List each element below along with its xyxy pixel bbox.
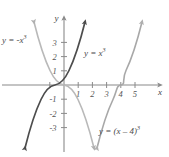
x-tick-labels: 1 2 3 4 5 [76,89,137,99]
curve-label-x-minus-4-cubed: y = (x – 4)3 [99,125,140,136]
curve-label-neg-x-cubed: y = -x3 [2,34,27,45]
curve-label-x-cubed-text: y = x [84,48,103,58]
y-tick-label-neg3: -3 [50,123,57,133]
curve-label-x-cubed: y = x3 [84,47,106,58]
y-tick-label-neg2: -2 [50,109,58,119]
x-tick-label-5: 5 [133,89,137,99]
y-tick-label-neg1: -1 [50,94,57,104]
y-tick-label-1: 1 [53,66,57,76]
curve-label-x-minus-4-cubed-exponent: 3 [137,125,140,131]
curve-label-x-minus-4-cubed-text: y = (x – 4) [99,126,137,136]
y-axis-label: y [54,13,59,23]
y-tick-label-3: 3 [52,38,57,48]
curve-label-neg-x-cubed-text: y = -x [2,35,24,45]
y-tick-label-2: 2 [53,52,58,62]
curve-label-x-cubed-exponent: 3 [103,47,106,53]
x-tick-label-3: 3 [103,89,108,99]
x-tick-label-4: 4 [119,89,124,99]
x-tick-label-2: 2 [90,89,95,99]
cubic-graph-figure: 1 2 3 4 5 3 2 1 -1 -2 -3 x y y = -x3 y [0,0,169,157]
graph-canvas: 1 2 3 4 5 3 2 1 -1 -2 -3 x y [0,0,169,157]
x-axis-label: x [157,87,162,97]
curve-label-neg-x-cubed-exponent: 3 [24,34,27,40]
